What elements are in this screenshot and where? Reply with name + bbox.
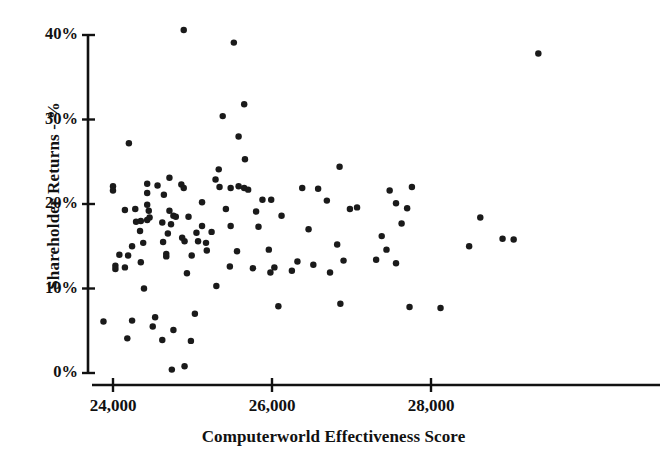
scatter-point (212, 176, 218, 182)
scatter-point (253, 208, 259, 214)
scatter-point (267, 269, 273, 275)
scatter-point (219, 113, 225, 119)
scatter-point (378, 233, 384, 239)
scatter-point (129, 317, 135, 323)
scatter-point (315, 186, 321, 192)
y-tick-label: 30% (22, 109, 78, 129)
scatter-point (173, 213, 179, 219)
scatter-point (192, 311, 198, 317)
scatter-point (146, 208, 152, 214)
scatter-point (116, 251, 122, 257)
scatter-point (137, 228, 143, 234)
scatter-point (275, 303, 281, 309)
scatter-point (110, 187, 116, 193)
scatter-point (133, 219, 139, 225)
y-tick-label: 0% (22, 362, 78, 382)
scatter-point (166, 208, 172, 214)
scatter-point (406, 304, 412, 310)
scatter-point (179, 235, 185, 241)
scatter-point (227, 263, 233, 269)
scatter-point (278, 213, 284, 219)
scatter-point (234, 248, 240, 254)
scatter-point (347, 206, 353, 212)
scatter-point (327, 269, 333, 275)
scatter-point (250, 265, 256, 271)
scatter-point (160, 239, 166, 245)
scatter-point (216, 184, 222, 190)
x-axis-label: Computerworld Effectiveness Score (0, 427, 667, 447)
scatter-point (294, 258, 300, 264)
scatter-chart-figure: Shareholder Returns - % Computerworld Ef… (0, 0, 667, 466)
scatter-point (163, 253, 169, 259)
scatter-point (310, 262, 316, 268)
y-tick-label: 40% (22, 24, 78, 44)
x-tick-label: 26,000 (227, 396, 317, 416)
scatter-point (268, 197, 274, 203)
scatter-point (386, 187, 392, 193)
scatter-point (195, 238, 201, 244)
scatter-point (223, 206, 229, 212)
scatter-point (393, 260, 399, 266)
scatter-point (203, 240, 209, 246)
scatter-point (122, 207, 128, 213)
scatter-point (499, 235, 505, 241)
scatter-point (231, 39, 237, 45)
scatter-point (235, 133, 241, 139)
scatter-point (122, 264, 128, 270)
scatter-point (165, 230, 171, 236)
scatter-point (184, 270, 190, 276)
scatter-point (299, 185, 305, 191)
scatter-point (259, 197, 265, 203)
scatter-point (154, 182, 160, 188)
scatter-point (144, 202, 150, 208)
scatter-point (129, 243, 135, 249)
scatter-point (144, 190, 150, 196)
scatter-point (213, 283, 219, 289)
scatter-point (144, 180, 150, 186)
scatter-point (125, 252, 131, 258)
scatter-point (373, 257, 379, 263)
scatter-point (166, 175, 172, 181)
scatter-point (255, 224, 261, 230)
scatter-point (324, 197, 330, 203)
scatter-point (181, 27, 187, 33)
scatter-point (334, 241, 340, 247)
scatter-point (216, 166, 222, 172)
scatter-point (146, 214, 152, 220)
scatter-point (161, 191, 167, 197)
scatter-point (150, 323, 156, 329)
scatter-point (159, 337, 165, 343)
scatter-point (535, 50, 541, 56)
scatter-point (204, 247, 210, 253)
scatter-point (193, 230, 199, 236)
scatter-point (227, 223, 233, 229)
scatter-point (152, 314, 158, 320)
scatter-point (266, 246, 272, 252)
scatter-point (393, 200, 399, 206)
data-points-group (100, 27, 541, 373)
scatter-point (398, 220, 404, 226)
scatter-point (188, 252, 194, 258)
scatter-point (168, 221, 174, 227)
scatter-point (141, 285, 147, 291)
scatter-point (181, 363, 187, 369)
scatter-point (336, 164, 342, 170)
scatter-point (112, 266, 118, 272)
scatter-point (208, 229, 214, 235)
scatter-point (245, 186, 251, 192)
scatter-point (241, 101, 247, 107)
scatter-point (383, 246, 389, 252)
scatter-point (235, 183, 241, 189)
scatter-point (466, 243, 472, 249)
y-tick-label: 20% (22, 193, 78, 213)
scatter-point (227, 185, 233, 191)
scatter-point (404, 205, 410, 211)
scatter-point (159, 219, 165, 225)
scatter-point (126, 140, 132, 146)
scatter-point (170, 327, 176, 333)
scatter-point (140, 240, 146, 246)
scatter-point (124, 335, 130, 341)
scatter-point (354, 204, 360, 210)
scatter-point (340, 257, 346, 263)
scatter-point (337, 300, 343, 306)
